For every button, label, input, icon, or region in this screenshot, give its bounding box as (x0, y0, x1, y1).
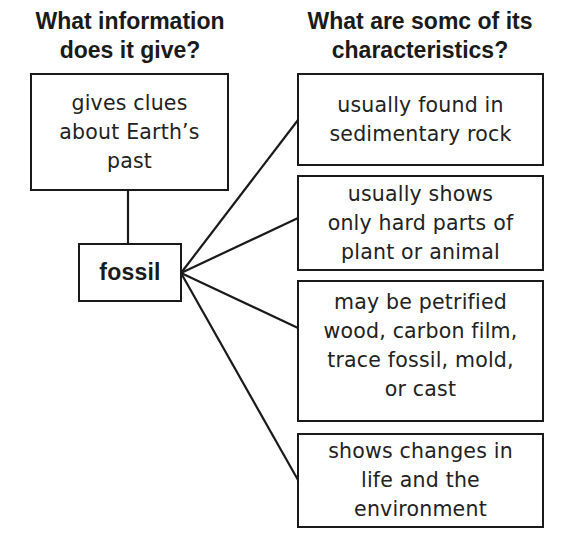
connector-fossil-to-char-2 (181, 218, 298, 273)
characteristic-line: trace fossil, mold, (324, 346, 518, 375)
characteristic-line: may be petrified (324, 288, 518, 317)
fossil-node-box: fossil (78, 243, 182, 302)
info-node-box: gives clues about Earth’s past (30, 73, 229, 191)
characteristic-text: usually shows only hard parts of plant o… (328, 180, 514, 267)
info-line: about Earth’s (59, 118, 199, 147)
characteristic-text: usually found in sedimentary rock (329, 91, 511, 149)
right-column-heading: What are somc of its characteristics? (280, 7, 560, 65)
right-heading-line-2: characteristics? (280, 36, 560, 65)
characteristic-line: wood, carbon film, (324, 317, 518, 346)
right-heading-line-1: What are somc of its (280, 7, 560, 36)
info-line: gives clues (59, 89, 199, 118)
connector-fossil-to-char-3 (181, 273, 298, 328)
characteristic-box-2: usually shows only hard parts of plant o… (297, 175, 544, 271)
connector-fossil-to-char-4 (181, 273, 298, 480)
info-line: past (59, 147, 199, 176)
left-column-heading: What information does it give? (8, 7, 252, 65)
characteristic-box-4: shows changes in life and the environmen… (297, 433, 544, 528)
characteristic-line: shows changes in (328, 437, 513, 466)
characteristic-line: plant or animal (328, 238, 514, 267)
left-heading-line-1: What information (8, 7, 252, 36)
characteristic-line: sedimentary rock (329, 120, 511, 149)
info-node-text: gives clues about Earth’s past (59, 89, 199, 176)
characteristic-box-3: may be petrified wood, carbon film, trac… (297, 280, 544, 422)
characteristic-line: usually shows (328, 180, 514, 209)
characteristic-line: or cast (324, 375, 518, 404)
characteristic-box-1: usually found in sedimentary rock (297, 73, 544, 166)
characteristic-line: usually found in (329, 91, 511, 120)
characteristic-line: environment (328, 495, 513, 524)
characteristic-text: shows changes in life and the environmen… (328, 437, 513, 524)
left-heading-line-2: does it give? (8, 36, 252, 65)
characteristic-text: may be petrified wood, carbon film, trac… (324, 288, 518, 404)
characteristic-line: only hard parts of (328, 209, 514, 238)
fossil-node-label: fossil (99, 258, 160, 287)
characteristic-line: life and the (328, 466, 513, 495)
